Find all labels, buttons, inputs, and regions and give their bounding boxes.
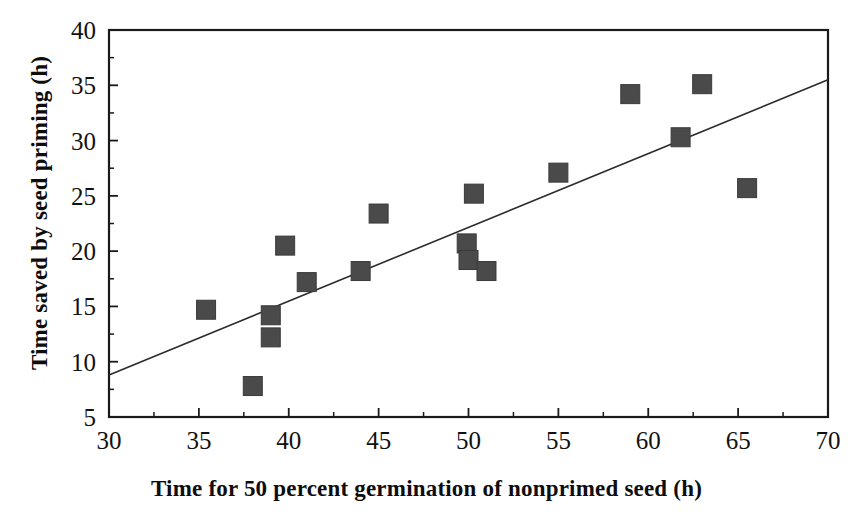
data-point-marker	[261, 328, 280, 347]
y-axis-tick-label: 25	[71, 183, 96, 210]
y-axis-tick-label: 35	[71, 72, 96, 99]
y-axis-tick-label: 10	[71, 349, 96, 376]
data-point-marker	[197, 300, 216, 319]
x-axis-tick-label: 70	[816, 427, 841, 454]
y-axis-tick-label: 15	[71, 293, 96, 320]
data-point-marker	[261, 306, 280, 325]
y-axis-tick-label: 5	[84, 404, 97, 431]
data-point-marker	[621, 85, 640, 104]
trend-line	[109, 80, 828, 375]
y-axis-tick-label: 20	[71, 238, 96, 265]
plot-frame	[109, 30, 828, 417]
data-point-marker	[351, 262, 370, 281]
x-axis-tick-label: 50	[456, 427, 481, 454]
scatter-chart-figure: Time saved by seed priming (h) 510152025…	[0, 0, 853, 520]
data-point-marker	[459, 250, 478, 269]
x-axis-tick-label: 55	[546, 427, 571, 454]
y-axis-tick-label: 40	[71, 17, 96, 44]
data-point-marker	[693, 75, 712, 94]
data-point-marker	[464, 184, 483, 203]
data-point-marker	[369, 204, 388, 223]
data-point-marker	[243, 377, 262, 396]
x-axis-tick-label: 45	[366, 427, 391, 454]
data-point-marker	[276, 236, 295, 255]
data-point-marker	[477, 262, 496, 281]
data-point-marker	[549, 163, 568, 182]
plot-area: 510152025303540303540455055606570	[0, 0, 853, 520]
x-axis-tick-label: 65	[726, 427, 751, 454]
data-point-marker	[738, 179, 757, 198]
x-axis-tick-label: 30	[97, 427, 122, 454]
x-axis-title: Time for 50 percent germination of nonpr…	[0, 476, 853, 502]
x-axis-tick-label: 40	[276, 427, 301, 454]
x-axis-tick-label: 35	[186, 427, 211, 454]
data-point-marker	[671, 128, 690, 147]
y-axis-tick-label: 30	[71, 128, 96, 155]
x-axis-tick-label: 60	[636, 427, 661, 454]
data-point-marker	[297, 273, 316, 292]
